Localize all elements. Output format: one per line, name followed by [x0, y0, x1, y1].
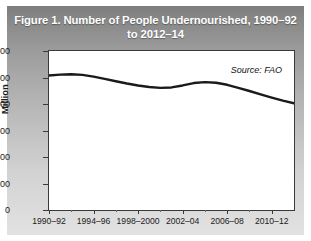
figure-title: Figure 1. Number of People Undernourishe…: [7, 14, 304, 41]
y-tick-label: 800: [0, 99, 10, 109]
y-tick-label: 400: [0, 152, 10, 162]
x-tick-mark: [272, 210, 273, 214]
y-tick-mark: [43, 131, 48, 132]
x-tick-label: 2006–08: [210, 216, 243, 226]
y-tick-mark: [43, 51, 48, 52]
figure-container: Figure 1. Number of People Undernourishe…: [7, 6, 304, 235]
x-tick-mark-minor: [116, 210, 117, 212]
x-tick-mark: [138, 210, 139, 214]
x-tick-label: 1990–92: [32, 216, 65, 226]
x-tick-mark: [49, 210, 50, 214]
y-tick-label: 0: [0, 205, 10, 215]
x-tick-label: 2010–12: [255, 216, 288, 226]
plot-area: Source: FAO: [48, 50, 295, 211]
x-tick-mark-minor: [160, 210, 161, 212]
y-tick-mark: [43, 210, 48, 211]
x-tick-mark-minor: [249, 210, 250, 212]
x-tick-mark: [227, 210, 228, 214]
y-tick-label: 1200: [0, 46, 10, 56]
x-tick-label: 1994–96: [77, 216, 110, 226]
figure-title-line-1: Figure 1. Number of People Undernourishe…: [7, 14, 304, 28]
data-series-line: [49, 51, 294, 210]
x-tick-mark-minor: [205, 210, 206, 212]
x-tick-label: 1998–2000: [117, 216, 160, 226]
x-tick-mark-minor: [71, 210, 72, 212]
y-tick-label: 1000: [0, 73, 10, 83]
x-tick-mark: [94, 210, 95, 214]
y-tick-label: 200: [0, 179, 10, 189]
x-tick-label: 2002–04: [166, 216, 199, 226]
y-tick-mark: [43, 184, 48, 185]
x-tick-mark: [183, 210, 184, 214]
figure-title-line-2: to 2012–14: [7, 28, 304, 42]
y-tick-mark: [43, 104, 48, 105]
y-tick-mark: [43, 78, 48, 79]
y-tick-mark: [43, 157, 48, 158]
y-tick-label: 600: [0, 126, 10, 136]
